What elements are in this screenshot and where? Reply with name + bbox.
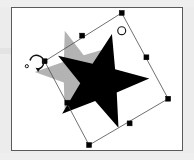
rotate-cursor — [25, 55, 43, 72]
rotate-cursor-hotspot-dot — [25, 65, 28, 68]
editor-canvas-area[interactable] — [0, 0, 194, 160]
rotate-cursor-arc — [30, 55, 43, 69]
canvas-scene[interactable] — [12, 8, 182, 150]
canvas-outer-bottom-margin — [0, 153, 194, 160]
canvas-outer-left-band — [0, 48, 11, 54]
handle-corner-right[interactable] — [166, 96, 171, 101]
handle-edge-top-right[interactable] — [144, 55, 149, 60]
handle-corner-bottom[interactable] — [87, 143, 92, 148]
handle-edge-bottom-left[interactable] — [65, 100, 70, 105]
handle-edge-bottom-right[interactable] — [127, 121, 132, 126]
handle-edge-top-left[interactable] — [80, 33, 85, 38]
canvas-frame[interactable] — [11, 7, 183, 151]
canvas-outer-top-margin — [0, 0, 194, 7]
handle-corner-top[interactable] — [119, 10, 124, 15]
rotation-pivot-marker[interactable] — [118, 27, 126, 35]
